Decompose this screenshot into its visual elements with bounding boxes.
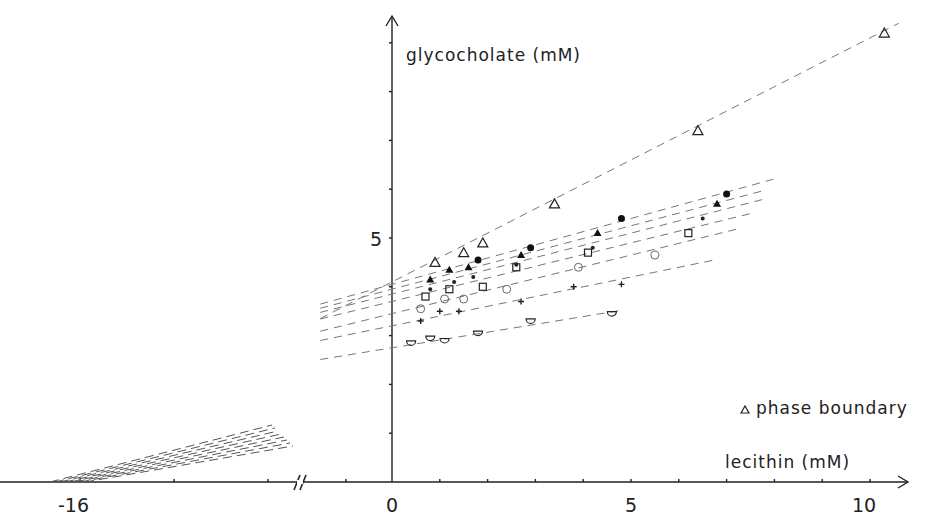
fit-line <box>320 190 765 308</box>
square-open-marker <box>685 230 692 237</box>
circle-filled-marker <box>723 191 730 198</box>
square-open-marker <box>584 249 591 256</box>
dot-marker <box>428 287 432 291</box>
y-axis-label: glycocholate (mM) <box>406 45 581 65</box>
fit-line <box>320 229 736 331</box>
plus-marker <box>437 308 443 314</box>
half-circle-open-marker <box>407 341 416 346</box>
plus-marker <box>618 281 624 287</box>
triangle-filled-marker <box>594 229 602 236</box>
circle-open-marker <box>503 285 511 293</box>
data-points <box>407 28 890 345</box>
circle-filled-marker <box>475 256 482 263</box>
axes <box>0 16 908 490</box>
fit-line <box>320 310 621 359</box>
triangle-open-marker <box>879 28 889 37</box>
x-tick-0: 0 <box>386 494 398 516</box>
dot-marker <box>701 216 705 220</box>
x-tick-5: 5 <box>625 494 637 516</box>
triangle-open-marker <box>478 238 488 247</box>
x-tick-minus16: -16 <box>58 494 89 516</box>
chart-canvas: glycocholate (mM) lecithin (mM) -16 0 5 … <box>0 0 944 519</box>
dot-marker <box>471 275 475 279</box>
circle-open-marker <box>441 295 449 303</box>
plus-marker <box>518 298 524 304</box>
circle-open-marker <box>651 251 659 259</box>
legend-label: phase boundary <box>756 398 908 418</box>
triangle-open-marker <box>459 248 469 257</box>
triangle-filled-marker <box>464 263 472 270</box>
x-tick-10: 10 <box>852 494 876 516</box>
x-axis-label: lecithin (mM) <box>725 452 850 472</box>
circle-filled-marker <box>618 215 625 222</box>
circle-open-marker <box>417 305 425 313</box>
legend: phase boundary <box>741 398 908 418</box>
dot-marker <box>452 280 456 284</box>
fit-line <box>320 259 717 340</box>
square-open-marker <box>479 283 486 290</box>
y-tick-5: 5 <box>370 228 382 250</box>
triangle-filled-marker <box>426 275 434 282</box>
plus-marker <box>456 308 462 314</box>
circle-filled-marker <box>527 244 534 251</box>
fit-line <box>320 179 774 304</box>
half-circle-open-marker <box>426 336 435 341</box>
triangle-open-marker <box>430 257 440 266</box>
square-open-marker <box>446 286 453 293</box>
plus-marker <box>418 318 424 324</box>
fit-line <box>320 23 898 318</box>
triangle-legend-icon <box>741 406 749 413</box>
half-circle-open-marker <box>526 319 535 324</box>
